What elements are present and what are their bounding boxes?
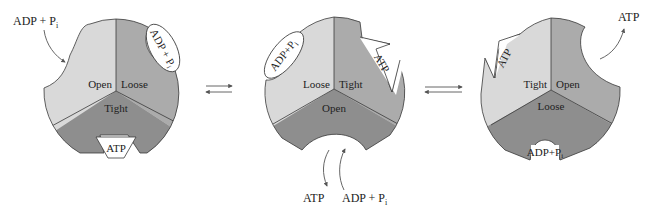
substrate-entry-arrow (44, 30, 65, 62)
substrate-entry-arrow (340, 149, 345, 190)
sector-label-open: Open (322, 102, 346, 114)
sector-label-loose: Loose (303, 78, 330, 90)
sector-label-loose: Loose (121, 78, 148, 90)
state-1: Open Loose Tight ADP + Pi ATP ADP + Pi (13, 10, 200, 175)
external-atp-out: ATP (303, 191, 325, 205)
external-atp-out: ATP (618, 10, 640, 24)
sector-label-tight: Tight (104, 102, 127, 114)
sector-label-tight: Tight (524, 78, 547, 90)
binding-change-diagram: Open Loose Tight ADP + Pi ATP ADP + Pi L… (0, 0, 650, 211)
sector-label-loose: Loose (538, 100, 565, 112)
bound-adp-pi: ADP+Pi (527, 146, 563, 160)
equilibrium-arrow-2 (425, 87, 462, 92)
sector-label-open: Open (88, 78, 112, 90)
external-adp-pi-in: ADP + Pi (13, 14, 59, 30)
atp-release-arrow (323, 150, 329, 186)
state-2: Loose Tight Open ADP+Pi ATP ATP ADP + Pi (250, 10, 420, 207)
equilibrium-arrow-1 (206, 86, 232, 92)
atp-release-arrow (600, 29, 624, 59)
sector-label-tight: Tight (339, 78, 362, 90)
bound-atp: ATP (106, 142, 126, 154)
sector-label-open: Open (556, 78, 580, 90)
external-adp-pi-in: ADP + Pi (342, 191, 388, 207)
state-3: Tight Open Loose ATP ADP+Pi ATP (465, 10, 640, 175)
